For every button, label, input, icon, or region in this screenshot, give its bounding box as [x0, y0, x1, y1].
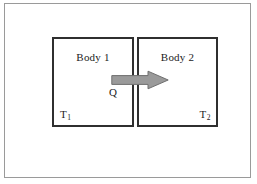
- body-1-temperature-label: T1: [60, 108, 70, 120]
- figure-frame: Body 1 T1 Body 2 T2 Q: [4, 3, 251, 178]
- thermodynamics-diagram: Body 1 T1 Body 2 T2 Q: [0, 0, 257, 184]
- body-2-temperature-label: T2: [200, 108, 210, 120]
- body-2-temperature-subscript: 2: [207, 113, 211, 122]
- body-2-temperature-symbol: T: [200, 108, 207, 120]
- heat-flow-label: Q: [109, 87, 117, 98]
- body-1-label: Body 1: [54, 51, 132, 63]
- body-2-label: Body 2: [139, 51, 216, 63]
- body-1-temperature-subscript: 1: [67, 113, 71, 122]
- body-1-temperature-symbol: T: [60, 108, 67, 120]
- heat-flow-arrow-icon: [111, 70, 169, 90]
